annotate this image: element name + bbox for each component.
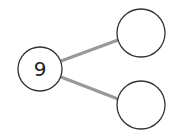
part-node-top[interactable]	[117, 9, 165, 57]
part-node-bottom[interactable]	[117, 81, 165, 129]
whole-node: 9	[18, 47, 62, 91]
number-bond-diagram: 9	[0, 0, 178, 139]
connector-top	[61, 40, 118, 61]
connector-bottom	[61, 77, 118, 99]
whole-value: 9	[34, 57, 47, 81]
